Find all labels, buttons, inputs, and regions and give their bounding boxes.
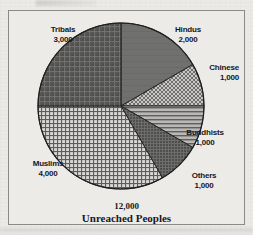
slice-label-chinese: Chinese 1,000	[177, 63, 239, 82]
slice-label-chinese-value: 1,000	[177, 73, 239, 83]
slice-label-muslims: Muslims 4,000	[19, 159, 77, 178]
caption-total: 12,000	[9, 201, 244, 212]
slice-label-muslims-name: Muslims	[33, 159, 64, 168]
slice-label-others-value: 1,000	[175, 181, 233, 191]
slice-label-chinese-name: Chinese	[209, 63, 239, 72]
slice-label-others-name: Others	[192, 171, 217, 180]
slice-label-buddhists-value: 1,000	[171, 138, 239, 148]
slice-label-tribals: Tribals 3,000	[31, 25, 95, 44]
chart-caption: 12,000 Unreached Peoples	[9, 201, 244, 225]
slice-label-tribals-value: 3,000	[31, 35, 95, 45]
slice-label-tribals-name: Tribals	[51, 25, 75, 34]
slice-label-hindus-value: 2,000	[157, 35, 219, 45]
chart-frame: Tribals 3,000 Hindus 2,000 Chinese 1,000…	[8, 10, 245, 225]
slice-label-others: Others 1,000	[175, 171, 233, 190]
slice-label-muslims-value: 4,000	[19, 169, 77, 179]
top-scan-artifact	[36, 0, 96, 6]
slice-label-buddhists-name: Buddhists	[186, 128, 223, 137]
caption-title: Unreached Peoples	[9, 212, 244, 225]
bottom-scan-artifact	[0, 228, 253, 235]
slice-label-buddhists: Buddhists 1,000	[171, 128, 239, 147]
screenshot-root: Tribals 3,000 Hindus 2,000 Chinese 1,000…	[0, 0, 253, 235]
slice-label-hindus: Hindus 2,000	[157, 25, 219, 44]
slice-label-hindus-name: Hindus	[175, 25, 201, 34]
